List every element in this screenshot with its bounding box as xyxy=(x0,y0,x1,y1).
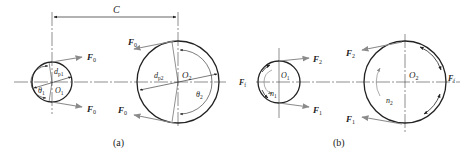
friction-arrows-large-bottom xyxy=(424,94,440,114)
speed-n1-label: n1 xyxy=(270,89,277,99)
center-o2-label-b: O2 xyxy=(409,70,419,81)
diameter-dp1-label: dp1 xyxy=(54,67,64,77)
force-f0-large-bottom-arrow xyxy=(134,115,174,123)
friction-ff-small-label: Ff xyxy=(238,78,246,88)
panel-a: C dp1 O1 θ1 dp2 O2 θ2 F0 F0 F0 F0 (a) xyxy=(14,4,226,149)
panel-b: O1 n1 Ff F2 F1 O2 n2 Ff F2 F1 (b) xyxy=(238,34,460,149)
center-o2-label: O2 xyxy=(182,70,192,81)
panel-a-caption: (a) xyxy=(113,137,124,149)
diameter-dp2-label: dp2 xyxy=(154,71,164,81)
force-f1-large-arrow xyxy=(362,117,402,124)
friction-ff-large-label: Ff xyxy=(447,74,455,84)
force-f2-small-arrow xyxy=(279,58,309,61)
force-f0-large-top-arrow xyxy=(134,41,174,49)
center-distance-label: C xyxy=(113,4,120,15)
force-f1-large-label: F1 xyxy=(345,114,355,125)
panel-b-caption: (b) xyxy=(333,137,345,149)
force-f1-small-label: F1 xyxy=(312,105,322,116)
speed-n2-label: n2 xyxy=(386,96,393,106)
force-f0-small-bottom-label: F0 xyxy=(86,104,96,115)
force-f2-small-label: F2 xyxy=(312,54,322,65)
center-o1-label: O1 xyxy=(55,86,64,96)
force-f2-large-label: F2 xyxy=(345,48,355,59)
contact-radius-top-o2 xyxy=(172,42,178,82)
contact-radius-top xyxy=(49,62,52,82)
force-f0-small-top-label: F0 xyxy=(86,52,96,63)
contact-radius-bottom-o2 xyxy=(172,82,178,122)
force-f1-small-arrow xyxy=(279,103,309,107)
force-f0-small-top-arrow xyxy=(52,57,82,62)
center-o1-label-b: O1 xyxy=(281,71,290,81)
contact-radius-bottom xyxy=(49,82,52,102)
force-f0-small-bottom-arrow xyxy=(52,102,82,107)
angle-theta1-label: θ1 xyxy=(38,86,45,96)
force-f0-large-top-label: F0 xyxy=(127,37,137,48)
force-f0-large-bottom-label: F0 xyxy=(117,105,127,116)
angle-theta2-label: θ2 xyxy=(196,90,203,100)
belt-drive-diagram: C dp1 O1 θ1 dp2 O2 θ2 F0 F0 F0 F0 (a) xyxy=(0,0,467,159)
